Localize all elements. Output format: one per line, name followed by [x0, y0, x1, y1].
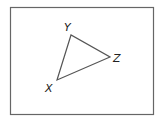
vertex-label-z: Z	[112, 52, 121, 65]
triangle-xyz	[57, 35, 110, 80]
vertex-label-x: X	[44, 82, 53, 95]
diagram-canvas: X Y Z	[0, 0, 159, 119]
frame-border	[11, 8, 154, 115]
vertex-label-y: Y	[64, 21, 72, 34]
